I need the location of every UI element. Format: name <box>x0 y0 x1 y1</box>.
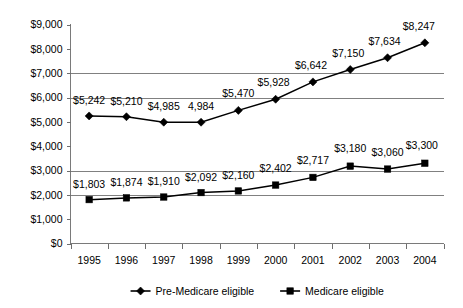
diamond-marker-icon <box>160 118 168 126</box>
data-point-label: $3,300 <box>406 139 438 151</box>
diamond-marker-icon <box>421 39 429 47</box>
chart-canvas: $0$1,000$2,000$3,000$4,000$5,000$6,000$7… <box>0 0 463 308</box>
y-axis-tick-label: $7,000 <box>30 67 62 79</box>
diamond-marker-icon <box>122 113 130 121</box>
square-marker-icon <box>235 188 241 194</box>
data-point-label: $3,060 <box>371 146 403 158</box>
square-marker-icon <box>161 194 167 200</box>
diamond-marker-icon <box>309 78 317 86</box>
x-axis-tick-label: 1996 <box>115 254 139 266</box>
data-point-label: $5,470 <box>222 87 254 99</box>
square-marker-icon <box>86 196 92 202</box>
diamond-marker-icon <box>234 106 242 114</box>
data-point-label: $7,150 <box>332 47 364 59</box>
y-axis-tick-label: $4,000 <box>30 140 62 152</box>
x-axis-tick-label: 2000 <box>264 254 288 266</box>
data-point-label: $5,242 <box>73 94 105 106</box>
y-axis-tick-labels: $0$1,000$2,000$3,000$4,000$5,000$6,000$7… <box>30 18 62 249</box>
legend-item-label[interactable]: Pre-Medicare eligible <box>156 285 255 297</box>
square-marker-icon <box>384 166 390 172</box>
data-point-label: $6,642 <box>295 59 327 71</box>
y-axis-tick-label: $8,000 <box>30 43 62 55</box>
x-axis-tick-label: 2003 <box>376 254 400 266</box>
x-axis-tick-label: 1997 <box>152 254 176 266</box>
chart-legend: Pre-Medicare eligibleMedicare eligible <box>131 285 385 297</box>
legend-item-label[interactable]: Medicare eligible <box>305 285 384 297</box>
x-axis-tick-labels: 1995199619971998199920002001200220032004 <box>77 254 436 266</box>
data-point-label: $8,247 <box>403 20 435 32</box>
diamond-marker-icon <box>137 287 145 295</box>
diamond-marker-icon <box>346 66 354 74</box>
data-point-label: $4,985 <box>148 100 180 112</box>
y-axis-tick-label: $1,000 <box>30 213 62 225</box>
data-point-label: $2,092 <box>185 171 217 183</box>
data-point-label: $2,160 <box>222 169 254 181</box>
data-point-label: $5,928 <box>258 76 290 88</box>
x-axis-tick-label: 1995 <box>77 254 101 266</box>
data-point-label: $1,803 <box>73 178 105 190</box>
x-axis-tick-label: 2002 <box>339 254 363 266</box>
data-point-label: 4,984 <box>188 100 214 112</box>
y-axis-tick-label: $3,000 <box>30 164 62 176</box>
x-axis-tick-label: 2001 <box>301 254 325 266</box>
data-point-label: $2,402 <box>260 162 292 174</box>
y-axis-tick-label: $5,000 <box>30 116 62 128</box>
x-axis-tick-label: 1999 <box>227 254 251 266</box>
line-chart: $0$1,000$2,000$3,000$4,000$5,000$6,000$7… <box>0 0 463 308</box>
square-marker-icon <box>287 288 293 294</box>
diamond-marker-icon <box>85 112 93 120</box>
y-axis-tick-label: $6,000 <box>30 91 62 103</box>
y-axis-tick-label: $9,000 <box>30 18 62 30</box>
data-point-label: $2,717 <box>297 154 329 166</box>
data-point-label: $3,180 <box>334 142 366 154</box>
square-marker-icon <box>347 163 353 169</box>
square-marker-icon <box>422 160 428 166</box>
x-axis-tick-label: 1998 <box>189 254 213 266</box>
square-marker-icon <box>272 182 278 188</box>
square-marker-icon <box>123 195 129 201</box>
diamond-marker-icon <box>272 95 280 103</box>
data-point-label: $1,874 <box>110 176 142 188</box>
square-marker-icon <box>310 174 316 180</box>
diamond-marker-icon <box>197 118 205 126</box>
y-axis-tick-label: $0 <box>51 237 63 249</box>
data-point-label: $1,910 <box>148 175 180 187</box>
data-point-label: $5,210 <box>110 95 142 107</box>
y-axis-tick-label: $2,000 <box>30 189 62 201</box>
data-point-label: $7,634 <box>368 35 400 47</box>
x-axis-tick-label: 2004 <box>413 254 437 266</box>
diamond-marker-icon <box>384 54 392 62</box>
square-marker-icon <box>198 189 204 195</box>
